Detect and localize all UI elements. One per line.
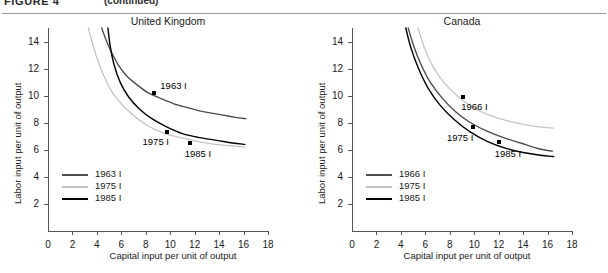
legend-item-label: 1963 I (95, 168, 121, 180)
y-axis-tick-label: 6 (21, 145, 39, 155)
x-axis-tick (244, 231, 245, 235)
y-axis-tick-label: 10 (325, 91, 343, 101)
y-axis-tick (44, 42, 48, 43)
x-axis-tick-label: 12 (490, 240, 508, 250)
x-axis-tick-label: 2 (367, 240, 385, 250)
x-axis-tick (121, 231, 122, 235)
data-point-marker (152, 91, 156, 95)
y-axis-tick (44, 150, 48, 151)
y-axis-tick (348, 204, 352, 205)
y-axis-tick-label: 4 (21, 172, 39, 182)
x-axis-tick-label: 4 (392, 240, 410, 250)
y-axis-tick (44, 177, 48, 178)
legend-swatch-line (62, 198, 88, 200)
data-point-label: 1975 I (447, 132, 473, 143)
x-axis-tick-label: 6 (416, 240, 434, 250)
legend-item-label: 1985 I (399, 192, 425, 204)
legend-swatch-line (366, 198, 392, 200)
legend-swatch-line (366, 174, 392, 176)
x-axis-tick-label: 2 (63, 240, 81, 250)
y-axis-line (48, 28, 49, 231)
x-axis-tick (170, 231, 171, 235)
legend-swatch-line (62, 174, 88, 176)
y-axis-tick-label: 8 (325, 118, 343, 128)
data-point-marker (461, 95, 465, 99)
y-axis-tick-label: 14 (21, 37, 39, 47)
x-axis-tick (572, 231, 573, 235)
y-axis-tick (44, 69, 48, 70)
x-axis-tick-label: 14 (514, 240, 532, 250)
x-axis-tick-label: 18 (563, 240, 581, 250)
y-axis-tick-label: 12 (21, 64, 39, 74)
legend-swatch-line (62, 186, 88, 188)
x-axis-tick (499, 231, 500, 235)
x-axis-tick (548, 231, 549, 235)
y-axis-tick-label: 8 (21, 118, 39, 128)
chart-panel-united-kingdom: United Kingdom Labor input per unit of o… (0, 0, 304, 273)
x-axis-tick (523, 231, 524, 235)
x-axis-tick-label: 16 (235, 240, 253, 250)
data-point-label: 1985 I (185, 148, 211, 159)
y-axis-tick-label: 6 (325, 145, 343, 155)
x-axis-tick-label: 4 (88, 240, 106, 250)
x-axis-tick-label: 12 (186, 240, 204, 250)
y-axis-tick-label: 14 (325, 37, 343, 47)
y-axis-tick (348, 177, 352, 178)
x-axis-tick (97, 231, 98, 235)
legend-item-label: 1985 I (95, 192, 121, 204)
x-axis-tick-label: 0 (39, 240, 57, 250)
x-axis-tick (219, 231, 220, 235)
y-axis-tick (348, 69, 352, 70)
x-axis-tick (72, 231, 73, 235)
x-axis-tick-label: 0 (343, 240, 361, 250)
y-axis-tick (44, 96, 48, 97)
y-axis-tick-label: 2 (325, 199, 343, 209)
data-point-marker (471, 125, 475, 129)
y-axis-tick (44, 123, 48, 124)
x-axis-tick-label: 8 (441, 240, 459, 250)
legend-item-label: 1975 I (95, 180, 121, 192)
x-axis-tick-label: 6 (112, 240, 130, 250)
y-axis-tick-label: 2 (21, 199, 39, 209)
legend-item-label: 1966 I (399, 168, 425, 180)
x-axis-tick-label: 16 (539, 240, 557, 250)
data-point-marker (497, 140, 501, 144)
y-axis-tick-label: 10 (21, 91, 39, 101)
isoquant-curve (418, 28, 554, 128)
x-axis-tick (195, 231, 196, 235)
x-axis-tick (450, 231, 451, 235)
isoquant-curve (406, 28, 554, 157)
y-axis-tick-label: 4 (325, 172, 343, 182)
x-axis-tick (268, 231, 269, 235)
y-axis-tick (348, 96, 352, 97)
data-point-label: 1963 I (160, 80, 186, 91)
x-axis-tick (425, 231, 426, 235)
y-axis-line (352, 28, 353, 231)
x-axis-line (352, 231, 572, 232)
x-axis-tick (146, 231, 147, 235)
data-point-marker (165, 130, 169, 134)
x-axis-tick (376, 231, 377, 235)
x-axis-tick-label: 14 (210, 240, 228, 250)
legend-item-label: 1975 I (399, 180, 425, 192)
data-point-label: 1985 I (495, 148, 521, 159)
x-axis-tick-label: 8 (137, 240, 155, 250)
y-axis-tick (348, 123, 352, 124)
chart-panel-canada: Canada Labor input per unit of output Ca… (304, 0, 608, 273)
legend-swatch-line (366, 186, 392, 188)
y-axis-tick (348, 42, 352, 43)
x-axis-tick (474, 231, 475, 235)
x-axis-tick (401, 231, 402, 235)
x-axis-tick-label: 18 (259, 240, 277, 250)
y-axis-tick (348, 150, 352, 151)
data-point-label: 1966 I (461, 101, 487, 112)
isoquant-curve (102, 28, 246, 119)
x-axis-line (48, 231, 268, 232)
x-axis-tick-label: 10 (161, 240, 179, 250)
y-axis-tick (44, 204, 48, 205)
data-point-marker (188, 141, 192, 145)
isoquant-curve (408, 28, 552, 151)
data-point-label: 1975 I (143, 136, 169, 147)
y-axis-tick-label: 12 (325, 64, 343, 74)
x-axis-tick-label: 10 (465, 240, 483, 250)
